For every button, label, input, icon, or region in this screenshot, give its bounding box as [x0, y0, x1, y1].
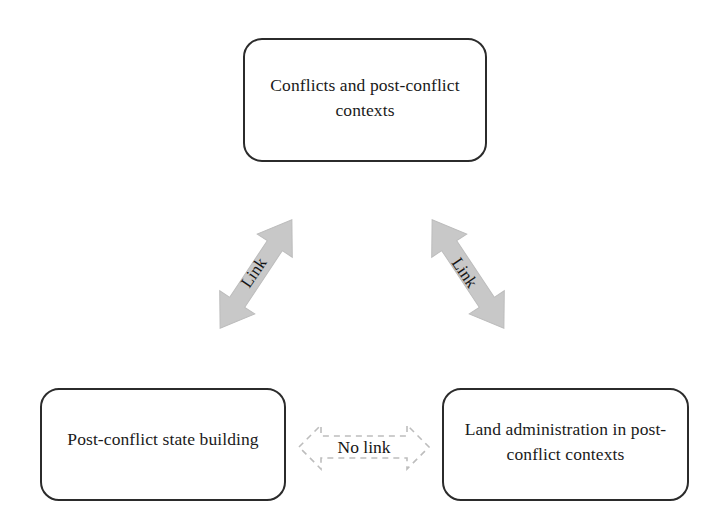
diagram-canvas: Conflicts and post-conflict contexts Pos… [0, 0, 722, 527]
node-label: Land administration in post-conflict con… [444, 417, 687, 467]
node-conflicts-and-post-conflict-contexts[interactable]: Conflicts and post-conflict contexts [243, 38, 487, 162]
connector-label: No link [296, 418, 432, 476]
connector-link-right[interactable]: Link [416, 206, 520, 342]
node-land-administration-in-post-conflict-contexts[interactable]: Land administration in post-conflict con… [442, 388, 689, 501]
node-label: Conflicts and post-conflict contexts [245, 73, 485, 123]
node-label: Post-conflict state building [51, 427, 274, 452]
connector-no-link[interactable]: No link [296, 418, 432, 476]
node-post-conflict-state-building[interactable]: Post-conflict state building [40, 388, 286, 501]
connector-link-left[interactable]: Link [204, 206, 308, 342]
